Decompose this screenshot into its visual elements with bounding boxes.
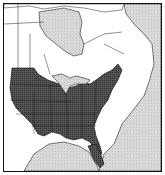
- map-frame: [3, 3, 162, 172]
- gulf-of-mexico: [24, 142, 99, 171]
- hudson-bay: [39, 8, 84, 56]
- range-map: [4, 4, 161, 171]
